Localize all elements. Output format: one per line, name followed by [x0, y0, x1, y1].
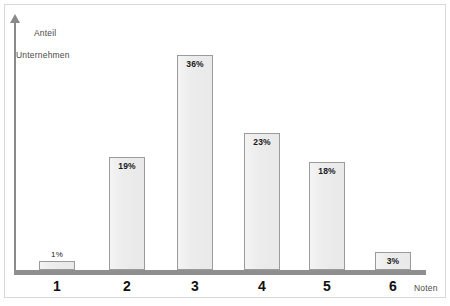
- bars-container: 1%19%36%23%18%3%: [0, 0, 450, 306]
- bar-value-label-3: 36%: [178, 59, 212, 69]
- bar-value-label-5: 18%: [310, 166, 344, 176]
- x-tick-label-6: 6: [378, 278, 408, 294]
- bar-value-label-6: 3%: [376, 256, 410, 266]
- x-tick-label-4: 4: [247, 278, 277, 294]
- bar-value-label-1: 1%: [40, 250, 74, 259]
- x-tick-label-2: 2: [112, 278, 142, 294]
- bar-chart-anteil-unternehmen: Anteil Unternehmen Noten 1%19%36%23%18%3…: [0, 0, 450, 306]
- bar-grade-2: 19%: [109, 157, 145, 270]
- bar-grade-1: 1%: [39, 261, 75, 270]
- bar-grade-6: 3%: [375, 252, 411, 270]
- bar-grade-5: 18%: [309, 162, 345, 270]
- bar-grade-3: 36%: [177, 55, 213, 270]
- x-tick-label-5: 5: [312, 278, 342, 294]
- x-tick-label-3: 3: [180, 278, 210, 294]
- bar-value-label-4: 23%: [245, 137, 279, 147]
- bar-grade-4: 23%: [244, 133, 280, 270]
- plot-area: Anteil Unternehmen Noten 1%19%36%23%18%3…: [0, 0, 450, 306]
- bar-value-label-2: 19%: [110, 161, 144, 171]
- x-tick-labels: 123456: [0, 278, 450, 300]
- x-tick-label-1: 1: [42, 278, 72, 294]
